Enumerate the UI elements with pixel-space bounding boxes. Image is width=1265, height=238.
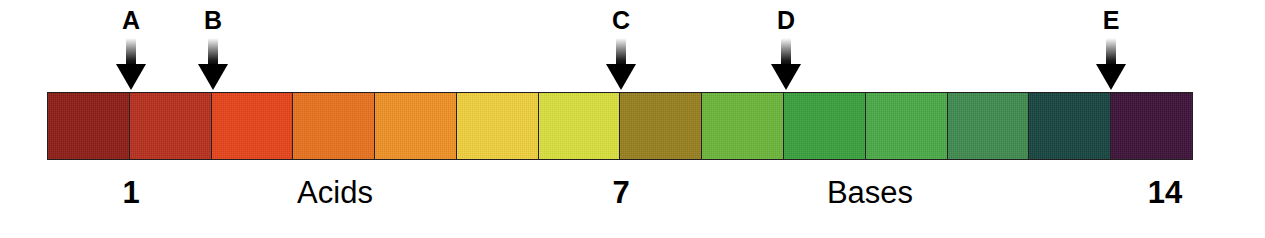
ph-segment-14 [1111, 93, 1192, 159]
scale-label-bases: Bases [790, 176, 950, 210]
ph-segment-13 [1029, 93, 1111, 159]
ph-color-bar [47, 92, 1193, 160]
ph-segment-12 [948, 93, 1030, 159]
ph-segment-5 [375, 93, 457, 159]
arrow-down-icon-c [601, 16, 641, 90]
arrow-down-icon-d [766, 16, 806, 90]
ph-segment-4 [293, 93, 375, 159]
arrow-down-icon-b [193, 16, 233, 90]
ph-segment-2 [130, 93, 212, 159]
ph-segment-3 [212, 93, 294, 159]
ph-segment-8 [620, 93, 702, 159]
ph-segment-9 [702, 93, 784, 159]
ph-segment-6 [457, 93, 539, 159]
ph-segment-10 [784, 93, 866, 159]
arrow-down-icon-a [111, 16, 151, 90]
scale-label-7: 7 [541, 176, 701, 210]
scale-label-acids: Acids [255, 176, 415, 210]
ph-scale-diagram: ABCDE 1Acids7Bases14 [0, 0, 1265, 238]
ph-segment-11 [866, 93, 948, 159]
ph-segment-1 [48, 93, 130, 159]
ph-segment-7 [539, 93, 621, 159]
scale-label-1: 1 [51, 176, 211, 210]
scale-label-14: 14 [1085, 176, 1245, 210]
arrow-down-icon-e [1091, 16, 1131, 90]
